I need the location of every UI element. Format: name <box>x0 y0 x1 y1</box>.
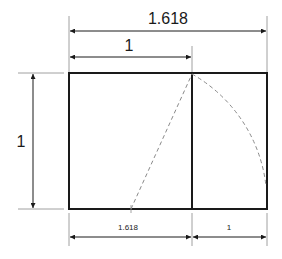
golden-rectangle <box>69 73 267 209</box>
bottom-left-label: 1.618 <box>118 223 139 232</box>
top-square-dimension: 1 <box>70 37 191 57</box>
bottom-right-dimension: 1 <box>193 223 266 237</box>
bottom-right-label: 1 <box>227 223 232 232</box>
golden-rectangle-diagram: 1.618 1 1 1.618 1 <box>0 0 282 259</box>
top-total-dimension: 1.618 <box>70 10 266 31</box>
left-height-dimension: 1 <box>17 74 33 208</box>
diagonal-construction-line <box>131 74 192 209</box>
extension-lines <box>18 16 267 246</box>
top-total-label: 1.618 <box>148 10 188 27</box>
top-square-label: 1 <box>125 37 134 54</box>
left-height-label: 1 <box>17 133 26 150</box>
bottom-left-dimension: 1.618 <box>70 223 191 237</box>
construction-arc <box>192 74 266 186</box>
